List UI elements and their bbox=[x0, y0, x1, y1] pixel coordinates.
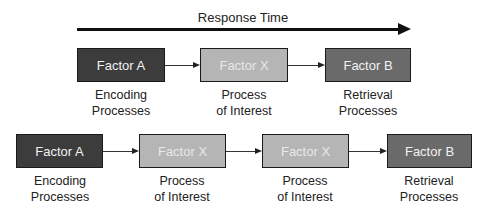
top-caption-retrieval: Retrieval Processes bbox=[313, 87, 423, 119]
connector-line bbox=[288, 65, 319, 66]
connector-line bbox=[349, 151, 381, 152]
caption-line: Encoding bbox=[5, 173, 115, 189]
response-time-arrow-line bbox=[77, 28, 400, 31]
bottom-caption-retrieval: Retrieval Processes bbox=[374, 173, 484, 205]
box-label: Factor A bbox=[97, 58, 145, 73]
box-label: Factor A bbox=[35, 144, 83, 159]
caption-line: Process bbox=[127, 173, 237, 189]
arrow-right-icon bbox=[398, 23, 411, 35]
bottom-caption-encoding: Encoding Processes bbox=[5, 173, 115, 205]
box-label: Factor B bbox=[343, 58, 392, 73]
box-label: Factor B bbox=[405, 144, 454, 159]
caption-line: Retrieval bbox=[374, 173, 484, 189]
connector-line bbox=[165, 65, 194, 66]
caption-line: Processes bbox=[374, 189, 484, 205]
caption-line: Retrieval bbox=[313, 87, 423, 103]
box-label: Factor X bbox=[158, 144, 207, 159]
bottom-factor-x-box-2: Factor X bbox=[262, 134, 349, 168]
box-label: Factor X bbox=[219, 58, 268, 73]
top-factor-a-box: Factor A bbox=[77, 48, 165, 82]
caption-line: of Interest bbox=[250, 189, 360, 205]
connector-line bbox=[226, 151, 256, 152]
bottom-factor-b-box: Factor B bbox=[387, 134, 472, 168]
arrow-right-icon bbox=[255, 148, 262, 154]
arrow-right-icon bbox=[380, 148, 387, 154]
bottom-factor-a-box: Factor A bbox=[16, 134, 103, 168]
caption-line: Encoding bbox=[66, 87, 176, 103]
top-factor-x-box: Factor X bbox=[200, 48, 288, 82]
bottom-caption-process-of-interest-1: Process of Interest bbox=[127, 173, 237, 205]
top-factor-b-box: Factor B bbox=[325, 48, 411, 82]
arrow-right-icon bbox=[193, 62, 200, 68]
bottom-factor-x-box-1: Factor X bbox=[139, 134, 226, 168]
caption-line: of Interest bbox=[127, 189, 237, 205]
bottom-caption-process-of-interest-2: Process of Interest bbox=[250, 173, 360, 205]
box-label: Factor X bbox=[281, 144, 330, 159]
connector-line bbox=[103, 151, 133, 152]
arrow-right-icon bbox=[318, 62, 325, 68]
response-time-label: Response Time bbox=[0, 10, 484, 25]
top-caption-encoding: Encoding Processes bbox=[66, 87, 176, 119]
caption-line: of Interest bbox=[189, 103, 299, 119]
arrow-right-icon bbox=[132, 148, 139, 154]
caption-line: Process bbox=[189, 87, 299, 103]
caption-line: Process bbox=[250, 173, 360, 189]
caption-line: Processes bbox=[66, 103, 176, 119]
top-caption-process-of-interest: Process of Interest bbox=[189, 87, 299, 119]
caption-line: Processes bbox=[313, 103, 423, 119]
caption-line: Processes bbox=[5, 189, 115, 205]
